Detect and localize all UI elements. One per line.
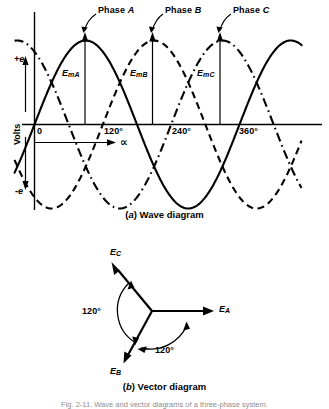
phase-c-letter: C <box>263 5 270 15</box>
three-phase-figure: Phase A Phase B Phase C EmA EmB EmC +e -… <box>0 0 329 409</box>
wave-diagram-plot <box>0 0 329 215</box>
x-axis-symbol-label: ∝ <box>120 136 128 149</box>
figure-caption: Fig. 2-11. Wave and vector diagrams of a… <box>0 400 329 409</box>
amplitude-label-a: EmA <box>62 68 80 78</box>
amplitude-arrow-a <box>82 32 88 124</box>
amplitude-label-b: EmB <box>130 68 148 78</box>
amplitude-arrow-c <box>217 32 223 124</box>
positive-volt-arrow <box>22 56 28 112</box>
angle-label-lower: 120° <box>155 345 174 355</box>
x-tick-360: 360° <box>239 126 258 136</box>
phase-c-label: Phase C <box>233 5 269 15</box>
wave-diagram-caption: (a) Wave diagram <box>0 209 329 220</box>
phase-b-label: Phase B <box>165 5 201 15</box>
amplitude-label-c: EmC <box>197 68 215 78</box>
amplitude-sub-c: mC <box>203 71 214 78</box>
y-tick-positive-label: +e <box>14 54 24 64</box>
vector-ea <box>152 307 214 316</box>
vector-label-eb: EB <box>110 366 121 376</box>
vector-diagram-caption: (b) Vector diagram <box>0 381 329 392</box>
y-tick-negative-label: -e <box>15 186 23 196</box>
phase-b-letter: B <box>195 5 202 15</box>
phase-a-label: Phase A <box>98 5 134 15</box>
vector-label-ec: EC <box>110 247 121 257</box>
vector-diagram-plot <box>0 245 329 385</box>
phase-a-letter: A <box>128 5 135 15</box>
amplitude-arrow-b <box>149 32 155 124</box>
x-tick-240: 240° <box>172 126 191 136</box>
phase-c-leader <box>216 14 231 33</box>
y-axis-label: Volts <box>12 124 22 145</box>
x-tick-120: 120° <box>104 126 123 136</box>
x-origin-label: 0 <box>37 126 42 136</box>
angle-label-upper: 120° <box>82 306 101 316</box>
vector-sub-eb: B <box>116 369 121 376</box>
vector-label-ea: EA <box>219 304 230 314</box>
amplitude-sub-b: mB <box>136 71 147 78</box>
phase-b-leader <box>149 14 163 33</box>
amplitude-sub-a: mA <box>68 71 79 78</box>
phase-a-leader <box>81 14 96 33</box>
vector-sub-ea: A <box>225 307 230 314</box>
vector-sub-ec: C <box>116 250 121 257</box>
